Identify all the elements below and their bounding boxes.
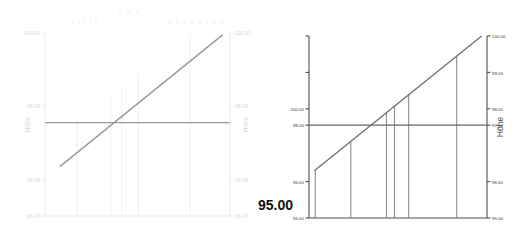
y-tick-label-right: 98.00: [492, 107, 504, 112]
y-tick-label-right: 98.00: [235, 103, 248, 109]
y-tick-label-left: 95.00: [293, 216, 305, 221]
y-tick-label-left: 95.00: [27, 213, 40, 219]
y-tick-label-right: 95.00: [235, 213, 248, 219]
chart-right-svg-wrapper: 95.0096.0098.00100.0095.0096.0097.0098.0…: [265, 0, 530, 242]
chart-left: 95.0096.0098.00100.0095.0096.0098.00100.…: [0, 0, 265, 242]
chart-panel-right: 95.0096.0098.00100.0095.0096.0097.0098.0…: [265, 0, 530, 242]
callout-value-label: 95.00: [258, 197, 293, 213]
svg-right-group: 95.0096.0098.00100.0095.0096.0097.0098.0…: [291, 34, 506, 221]
y-axis-title-left: Höhe: [24, 116, 31, 132]
y-axis-title-right: Höhe: [495, 117, 505, 138]
y-tick-label-left: 96.00: [293, 180, 305, 185]
y-tick-label-right: 96.00: [492, 180, 504, 185]
y-axis-title-right: Höhe: [242, 116, 249, 132]
y-tick-label-left: 100.00: [291, 107, 305, 112]
y-tick-label-right: 99.00: [492, 71, 504, 76]
y-tick-label-right: 96.00: [235, 177, 248, 183]
y-tick-label-right: 95.00: [492, 216, 504, 221]
diagram-canvas: X X X t t t t t x x x x x x x x x x x x …: [0, 0, 530, 242]
svg-left-group: 95.0096.0098.00100.0095.0096.0098.00100.…: [24, 30, 251, 219]
y-tick-label-left: 100.00: [24, 30, 40, 36]
y-tick-label-left: 98.00: [293, 123, 305, 128]
y-tick-label-left: 96.00: [27, 177, 40, 183]
y-tick-label-left: 98.00: [27, 103, 40, 109]
profile-line: [60, 35, 223, 167]
chart-right: 95.0096.0098.00100.0095.0096.0097.0098.0…: [265, 0, 530, 242]
y-tick-label-right: 100.00: [492, 34, 506, 39]
y-tick-label-right: 100.00: [235, 30, 251, 36]
chart-left-svg-wrapper: 95.0096.0098.00100.0095.0096.0098.00100.…: [0, 0, 265, 242]
chart-panel-left: X X X t t t t t x x x x x x x x x x x x …: [0, 0, 265, 242]
